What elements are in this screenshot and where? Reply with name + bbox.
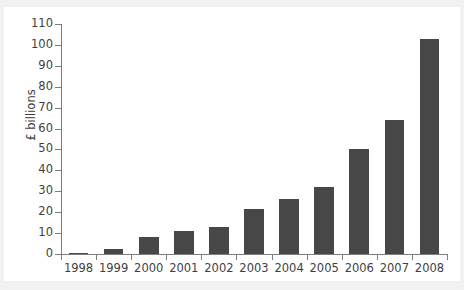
y-tick-label: 90 [0,60,53,72]
x-tick-mark [307,255,308,260]
bar [349,149,369,254]
x-tick-mark [166,255,167,260]
x-tick-mark [236,255,237,260]
x-tick-label: 2008 [404,263,454,275]
page-band-right [460,0,464,290]
x-axis-line [61,254,448,255]
page-band-bottom [0,281,464,290]
bar-chart-figure: £ billions 0102030405060708090100110 199… [0,0,464,290]
y-axis-line [61,24,62,255]
y-tick-label: 30 [0,185,53,197]
bar [385,120,405,254]
x-tick-mark [272,255,273,260]
y-tick-label: 20 [0,206,53,218]
x-tick-mark [201,255,202,260]
bar [174,231,194,254]
y-tick-label: 70 [0,102,53,114]
page-band-top [0,0,464,7]
y-tick-label: 0 [0,248,53,260]
x-tick-mark [447,255,448,260]
bar [244,209,264,254]
y-tick-label: 40 [0,164,53,176]
x-tick-mark [342,255,343,260]
x-tick-mark [131,255,132,260]
bar [279,199,299,254]
y-tick-label: 10 [0,227,53,239]
bar [139,237,159,254]
bar [209,227,229,254]
y-tick-label: 110 [0,18,53,30]
y-tick-label: 50 [0,143,53,155]
x-tick-mark [96,255,97,260]
x-tick-mark [377,255,378,260]
y-tick-label: 100 [0,39,53,51]
bar [420,39,440,254]
y-tick-label: 80 [0,81,53,93]
y-tick-label: 60 [0,123,53,135]
x-tick-mark [61,255,62,260]
x-tick-mark [412,255,413,260]
bar [314,187,334,254]
